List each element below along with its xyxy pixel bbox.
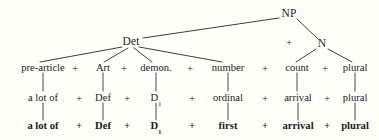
row-0-item-demon-: demon. (140, 63, 171, 74)
tree-node-n: N (318, 38, 326, 50)
row-0-item-pre-article: pre-article (21, 63, 65, 74)
plus-sign-r0-3: + (121, 63, 127, 74)
n-to-count (296, 49, 316, 62)
row-0-item-art: Art (96, 63, 110, 74)
plus-sign-r1-3: + (124, 93, 130, 104)
row-1-item-plural: plural (343, 93, 368, 104)
det-to-art (104, 48, 128, 62)
plus-sign-r0-5: + (187, 63, 193, 74)
np-to-det (143, 18, 279, 38)
plus-sign-r2-9: + (324, 121, 330, 132)
row-1-item-d: D1 (150, 93, 161, 104)
row-2-item-a-lot-of: a lot of (27, 121, 58, 132)
np-to-n (297, 19, 318, 39)
row-2-item-arrival: arrival (282, 121, 313, 132)
subscript-index: 1 (158, 128, 162, 136)
row-1-item-arrival: arrival (284, 93, 312, 104)
row-1-item-ordinal: ordinal (213, 93, 243, 104)
det-to-number (139, 47, 222, 62)
row-1-item-def: Def (95, 93, 111, 104)
root-plus-sign: + (286, 37, 292, 48)
det-to-demon (134, 48, 152, 62)
row-0-item-number: number (212, 63, 244, 74)
plus-sign-r0-1: + (72, 63, 78, 74)
plus-sign-r1-1: + (76, 93, 82, 104)
subscript-index: 1 (158, 100, 162, 108)
row-2-item-d: D1 (150, 121, 161, 132)
plus-sign-r2-1: + (76, 121, 82, 132)
plus-sign-r2-3: + (124, 121, 130, 132)
plus-sign-r1-9: + (324, 93, 330, 104)
row-0-item-plural: plural (343, 63, 368, 74)
tree-node-det: Det (123, 36, 140, 48)
tree-node-np: NP (282, 8, 297, 20)
row-1-item-a-lot-of: a lot of (28, 93, 58, 104)
row-0-item-count: count (285, 63, 309, 74)
det-to-pre-article (40, 47, 122, 62)
n-to-plural (328, 49, 352, 62)
plus-sign-r0-9: + (322, 63, 328, 74)
syntax-tree-figure: NP+DetNpre-article+Art+demon.+number+cou… (0, 0, 379, 140)
plus-sign-r0-7: + (262, 63, 268, 74)
row-2-item-def: Def (95, 121, 111, 132)
row-2-item-plural: plural (341, 121, 369, 132)
plus-sign-r2-7: + (262, 121, 268, 132)
row-2-item-first: first (219, 121, 238, 132)
plus-sign-r2-5: + (189, 121, 195, 132)
plus-sign-r1-5: + (189, 93, 195, 104)
plus-sign-r1-7: + (262, 93, 268, 104)
